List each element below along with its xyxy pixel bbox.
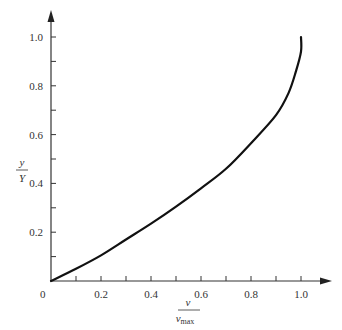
y-label-numerator: y: [19, 156, 25, 168]
x-tick-label: 0.8: [244, 288, 258, 300]
y-tick-label: 0.6: [29, 129, 43, 141]
y-axis-arrow-icon: [48, 10, 55, 22]
y-axis-label: y Y: [16, 156, 28, 184]
y-label-denominator: Y: [19, 172, 27, 184]
x-label-denominator: vmax: [176, 312, 195, 326]
x-tick-label: 0.2: [94, 288, 108, 300]
tick-labels: 0.20.40.60.81.00.20.40.60.81.0: [29, 31, 308, 300]
x-tick-label: 0.4: [144, 288, 158, 300]
y-tick-label: 0.4: [29, 177, 43, 189]
y-tick-label: 0.8: [29, 80, 43, 92]
y-tick-label: 0.2: [29, 226, 43, 238]
axes: [48, 10, 333, 285]
y-tick-label: 1.0: [29, 31, 43, 43]
x-label-den-sub: max: [181, 317, 195, 326]
x-tick-label: 0.6: [194, 288, 208, 300]
x-axis-arrow-icon: [320, 278, 332, 285]
origin-label: 0: [40, 288, 46, 300]
data-curve: [51, 37, 301, 281]
chart-plot: 0.20.40.60.81.00.20.40.60.81.0 0 y Y v v…: [0, 0, 342, 330]
x-tick-label: 1.0: [294, 288, 308, 300]
ticks: [51, 37, 301, 281]
x-label-numerator: v: [186, 296, 191, 308]
x-axis-label: v vmax: [176, 296, 200, 326]
